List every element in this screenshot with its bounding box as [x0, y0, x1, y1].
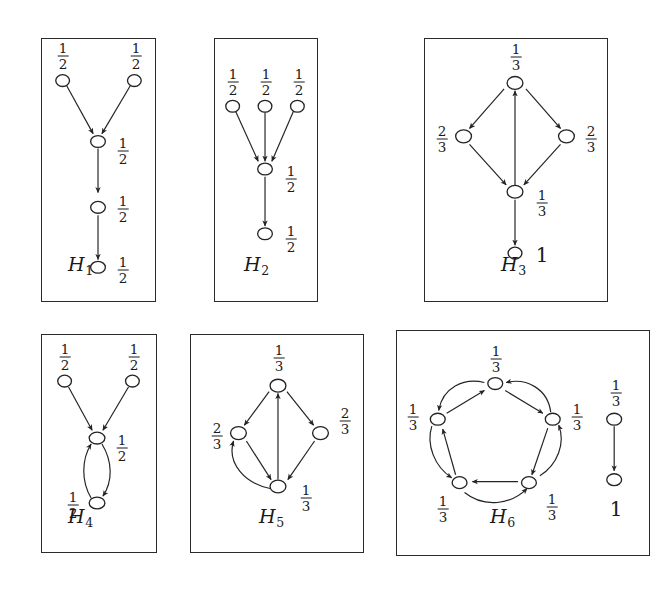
node-top-left[interactable]: [226, 100, 240, 112]
frac-numerator: 2: [586, 125, 597, 140]
edge-topleft-to-middle: [69, 387, 93, 430]
edge-lowerright-to-upperright-curved: [540, 425, 561, 476]
caption-h2: H2: [244, 253, 269, 278]
edge-right-to-bottom: [524, 144, 561, 185]
node-middle[interactable]: [258, 163, 273, 175]
panel-h1-graph: [42, 39, 155, 301]
edge-top-to-right: [526, 89, 561, 129]
edge-upperleft-to-ringtop: [447, 390, 485, 413]
label-h2-top-left: 12: [228, 68, 239, 97]
node-bottom[interactable]: [507, 185, 523, 198]
frac-numerator: 1: [438, 495, 449, 510]
node-side-top[interactable]: [607, 413, 622, 425]
label-h5-bottom: 13: [301, 484, 312, 513]
edge-lowerleft-to-upperleft: [443, 429, 456, 475]
frac-numerator: 1: [118, 195, 129, 210]
node-top-center[interactable]: [258, 100, 272, 112]
edge-topleft-to-middle: [236, 111, 259, 161]
frac-numerator: 1: [117, 434, 128, 449]
caption-letter: H: [68, 505, 85, 527]
edge-ringtop-to-upperright: [505, 390, 543, 413]
label-h3-left: 23: [437, 125, 448, 154]
frac-numerator: 1: [547, 493, 558, 508]
frac-numerator: 1: [118, 256, 129, 271]
panel-h4: 12 12 12 12: [41, 334, 157, 553]
label-h4-top-left: 12: [60, 343, 71, 372]
node-top[interactable]: [507, 77, 523, 90]
frac-denominator: 2: [117, 449, 128, 463]
label-h3-right: 23: [586, 125, 597, 154]
caption-letter: H: [501, 253, 518, 275]
node-mid-lower[interactable]: [91, 201, 106, 213]
node-right[interactable]: [559, 130, 575, 143]
node-top-left[interactable]: [58, 375, 72, 387]
node-side-bottom[interactable]: [607, 474, 622, 486]
node-top-right[interactable]: [126, 375, 140, 387]
frac-denominator: 3: [408, 418, 419, 432]
frac-denominator: 2: [286, 240, 297, 254]
frac-denominator: 3: [491, 360, 502, 374]
edge-ringtop-to-upperleft-curved: [439, 381, 485, 410]
edge-topright-to-middle: [272, 111, 294, 161]
node-right[interactable]: [313, 427, 329, 440]
node-middle[interactable]: [89, 432, 105, 444]
frac-denominator: 2: [129, 358, 140, 372]
frac-denominator: 3: [511, 58, 522, 72]
node-ring-lower-left[interactable]: [452, 477, 467, 489]
node-top[interactable]: [270, 379, 286, 392]
label-h4-middle: 12: [117, 434, 128, 463]
frac-denominator: 3: [611, 394, 622, 408]
caption-letter: H: [259, 505, 276, 527]
frac-numerator: 2: [437, 125, 448, 140]
frac-numerator: 1: [60, 343, 71, 358]
caption-subscript: 1: [85, 263, 93, 278]
frac-denominator: 2: [118, 152, 129, 166]
label-h2-top-center: 12: [261, 68, 272, 97]
caption-subscript: 6: [507, 515, 515, 530]
caption-h6: H6: [490, 505, 515, 530]
frac-numerator: 1: [58, 42, 69, 57]
label-h1-top-right: 12: [131, 42, 142, 71]
node-ring-upper-left[interactable]: [430, 413, 445, 425]
node-ring-upper-right[interactable]: [545, 413, 560, 425]
node-ring-top[interactable]: [488, 378, 503, 390]
node-bottom[interactable]: [258, 228, 273, 240]
label-h3-top: 13: [511, 43, 522, 72]
node-top-right[interactable]: [127, 75, 141, 87]
edge-lowerleft-to-lowerright-curved: [465, 489, 527, 503]
frac-numerator: 1: [511, 43, 522, 58]
node-left[interactable]: [456, 130, 472, 143]
label-h5-left: 23: [212, 422, 223, 451]
node-ring-lower-right[interactable]: [522, 477, 537, 489]
edge-right-to-bottom: [288, 441, 315, 480]
edge-left-to-bottom: [470, 144, 507, 185]
caption-h5: H5: [259, 505, 284, 530]
panel-h6-graph: [397, 331, 649, 555]
label-h6-ring-upper-right: 13: [572, 403, 583, 432]
label-h1-bottom: 12: [118, 256, 129, 285]
edge-top-to-right: [287, 392, 314, 426]
frac-denominator: 2: [131, 57, 142, 71]
edge-topright-to-midupper: [102, 85, 130, 133]
caption-subscript: 2: [261, 263, 269, 278]
frac-denominator: 3: [572, 418, 583, 432]
frac-denominator: 2: [118, 210, 129, 224]
panel-h6: 13 13 13 13 13 13 1: [396, 330, 650, 556]
node-bottom[interactable]: [270, 480, 286, 493]
frac-numerator: 1: [274, 344, 285, 359]
label-h2-top-right: 12: [294, 68, 305, 97]
node-top-left[interactable]: [56, 75, 70, 87]
node-mid-upper[interactable]: [91, 136, 106, 148]
label-h5-top: 13: [274, 344, 285, 373]
label-h6-ring-lower-right: 13: [547, 493, 558, 522]
label-h6-ring-lower-left: 13: [438, 495, 449, 524]
caption-letter: H: [244, 253, 261, 275]
node-top-right[interactable]: [291, 100, 305, 112]
frac-numerator: 1: [294, 68, 305, 83]
frac-numerator: 1: [228, 68, 239, 83]
frac-denominator: 2: [60, 358, 71, 372]
node-left[interactable]: [231, 427, 247, 440]
edge-upperright-to-ringtop-curved: [506, 381, 551, 412]
label-h1-top-left: 12: [58, 42, 69, 71]
label-h1-mid-lower: 12: [118, 195, 129, 224]
